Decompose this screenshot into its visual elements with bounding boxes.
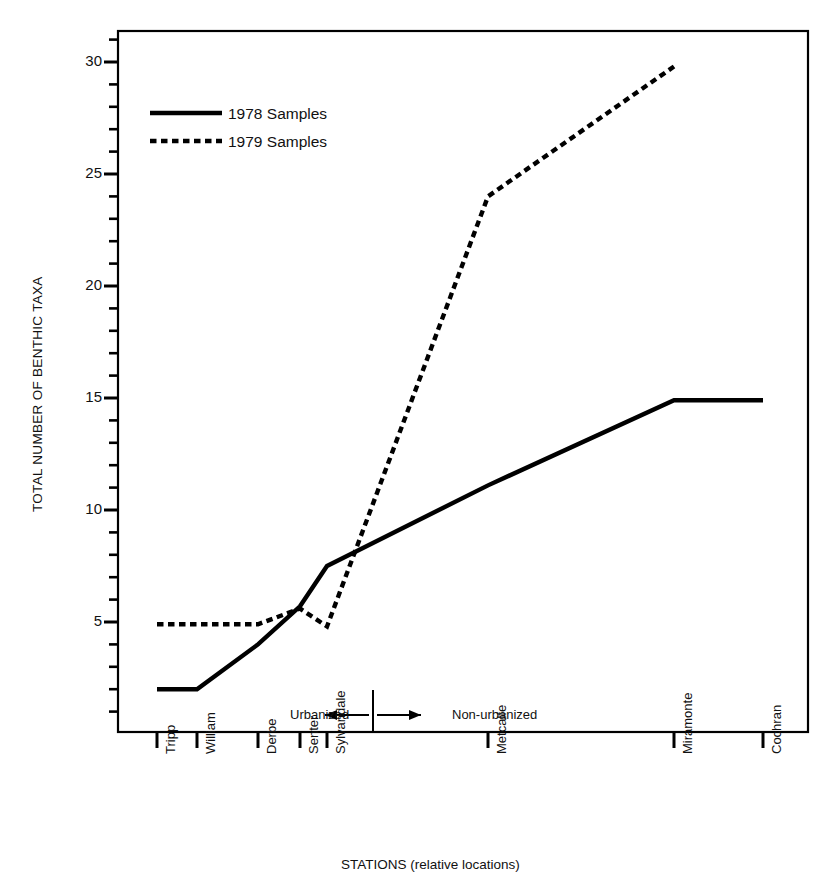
y-tick-label: 10: [56, 500, 102, 517]
data-series-group: [157, 66, 763, 689]
legend-item-1978-label: 1978 Samples: [228, 105, 327, 123]
x-axis-title: STATIONS (relative locations): [341, 857, 520, 872]
station-label-william: William: [203, 712, 218, 754]
y-tick-label: 15: [56, 388, 102, 405]
plot-area: [0, 0, 826, 891]
zone-label-urbanized: Urbanized: [290, 707, 349, 722]
station-label-sylvandale: Sylvandale: [333, 690, 348, 754]
x-axis-ticks: [157, 732, 763, 748]
y-tick-label: 20: [56, 276, 102, 293]
station-label-tripp: Tripp: [163, 725, 178, 754]
series-line-1978: [157, 400, 763, 689]
non-urbanized-arrow-head: [409, 710, 421, 720]
y-tick-label: 25: [56, 164, 102, 181]
plot-frame: [118, 31, 808, 732]
y-tick-label: 5: [56, 612, 102, 629]
station-label-derbe: Derbe: [264, 719, 279, 754]
zone-label-non-urbanized: Non-urbanized: [452, 707, 537, 722]
y-axis-ticks: [104, 40, 118, 712]
station-label-miramonte: Miramonte: [680, 693, 695, 754]
y-tick-label: 30: [56, 52, 102, 69]
chart-figure: TOTAL NUMBER OF BENTHIC TAXA 30252015105…: [0, 0, 826, 891]
station-label-cochran: Cochran: [769, 705, 784, 754]
legend-item-1979-label: 1979 Samples: [228, 133, 327, 151]
legend-swatch-group: [150, 113, 222, 141]
